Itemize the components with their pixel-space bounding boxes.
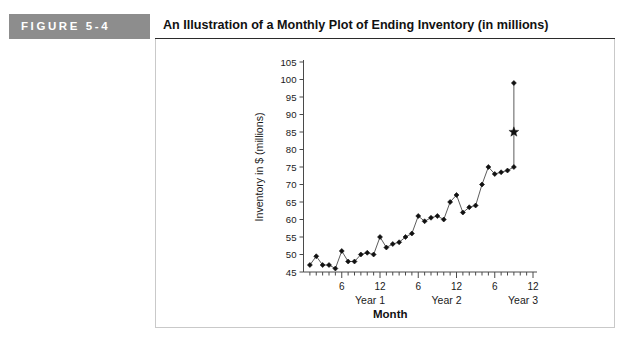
figure-number-badge: FIGURE 5-4 — [9, 14, 150, 39]
figure-title-rule: An Illustration of a Monthly Plot of End… — [155, 14, 615, 39]
figure-title: An Illustration of a Monthly Plot of End… — [163, 14, 549, 37]
figure-header: FIGURE 5-4 An Illustration of a Monthly … — [9, 14, 615, 39]
figure-page: FIGURE 5-4 An Illustration of a Monthly … — [0, 0, 641, 353]
figure-body-frame — [155, 39, 615, 328]
